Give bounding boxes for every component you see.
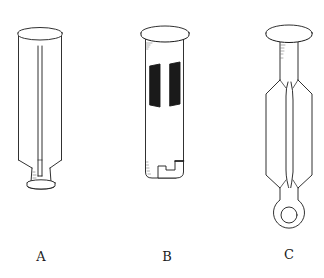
object-c-cap-rim xyxy=(266,33,312,43)
object-b-band-left xyxy=(150,64,160,107)
object-a-neck-shading xyxy=(33,172,36,178)
object-b xyxy=(141,26,189,178)
label-b: B xyxy=(162,249,172,264)
illustration xyxy=(0,0,324,278)
object-a xyxy=(18,28,62,190)
object-c-eyelet-hole xyxy=(281,207,297,223)
object-a-taper-left xyxy=(19,160,33,168)
figure: A B C xyxy=(0,0,324,278)
object-a-neck-right xyxy=(50,168,51,182)
object-c-slit-join-bl xyxy=(280,180,286,188)
label-c: C xyxy=(284,247,294,262)
object-c-slit-join-tl xyxy=(280,80,286,88)
object-a-taper-right xyxy=(50,160,62,168)
object-c-slit-join-tr xyxy=(293,80,298,88)
object-c-slit-left xyxy=(286,82,290,192)
object-c-slit-join-br xyxy=(293,180,298,188)
object-c xyxy=(266,25,312,228)
object-b-band-right xyxy=(170,62,180,106)
object-c-slit-right xyxy=(290,82,293,192)
object-c-neck-shading xyxy=(281,45,285,58)
object-b-tube xyxy=(146,38,184,178)
object-c-body-right xyxy=(298,80,312,188)
object-a-neck-left xyxy=(31,168,32,182)
object-c-body-left xyxy=(266,80,280,188)
object-a-cap-rim xyxy=(18,33,62,40)
label-a: A xyxy=(36,249,45,264)
